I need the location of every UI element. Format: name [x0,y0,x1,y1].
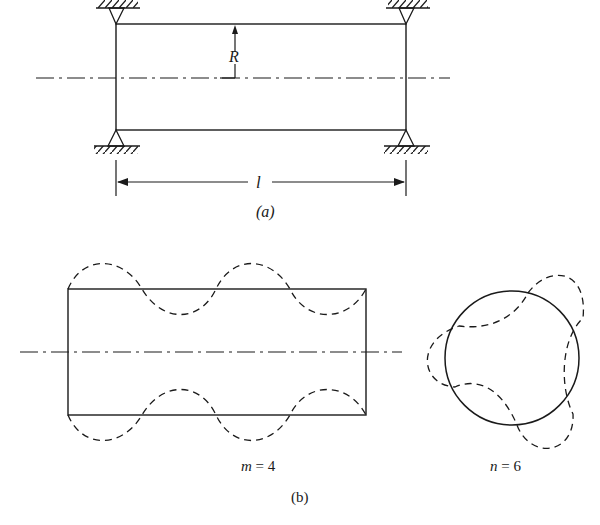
radius-label: R [228,48,239,65]
circumferential-mode-value: = 6 [498,458,522,474]
support-bottom-left [94,130,140,154]
support-bottom-right [384,130,430,154]
circumferential-mode-label: n = 6 [490,458,521,474]
support-top-right [386,0,430,24]
caption-b: (b) [291,489,309,506]
axial-mode-value: = 4 [252,458,276,474]
support-top-left [96,0,140,24]
part-a-cylinder [36,0,450,196]
part-b-axial-mode [20,264,402,441]
cylinder-outline [116,24,406,130]
axial-mode-label: m = 4 [241,458,276,474]
length-label: l [256,173,261,192]
caption-a: (a) [256,203,275,221]
m-symbol: m [241,458,252,474]
n-symbol: n [490,458,498,474]
cross-section-circle [445,291,579,425]
mode-shape-circumferential [427,275,583,448]
part-b-circumferential-mode [427,275,583,448]
figure-canvas: R l (a) m = 4 n = 6 (b) [0,0,600,525]
length-dimension [116,160,406,196]
